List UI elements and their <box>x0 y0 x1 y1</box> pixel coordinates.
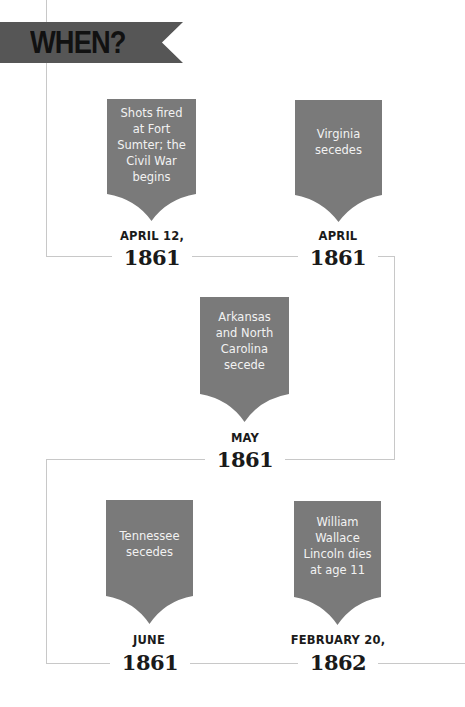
event-year: 1862 <box>298 652 378 674</box>
event-text-line: William <box>294 514 381 530</box>
event-text-line: Shots fired <box>107 105 196 121</box>
event-text-line: Lincoln dies <box>294 546 381 562</box>
page-title: WHEN? <box>30 23 126 63</box>
event-text-line: Sumter; the <box>107 137 196 153</box>
event-text-line: at Fort <box>107 121 196 137</box>
event-year: 1861 <box>110 652 190 674</box>
event-description: Virginia secedes <box>295 126 382 158</box>
event-description: William Wallace Lincoln dies at age 11 <box>294 514 381 578</box>
event-date: MAY <box>145 431 345 445</box>
event-card: Virginia secedes <box>295 100 384 222</box>
event-text-line: at age 11 <box>294 562 381 578</box>
event-date: APRIL 12, <box>52 229 252 243</box>
event-date: JUNE <box>49 633 249 647</box>
event-description: Tennessee secedes <box>106 528 193 560</box>
event-year: 1861 <box>205 449 285 471</box>
event-year: 1861 <box>112 247 192 269</box>
event-description: Arkansas and North Carolina secede <box>200 309 289 373</box>
pennant-shape-icon <box>295 100 384 222</box>
event-text-line: Arkansas <box>200 309 289 325</box>
timeline-line-vertical-left-bottom <box>46 459 47 664</box>
event-date: APRIL <box>238 229 438 243</box>
event-text-line: begins <box>107 169 196 185</box>
event-year: 1861 <box>298 247 378 269</box>
event-text-line: secedes <box>295 142 382 158</box>
timeline-line-row3 <box>46 663 465 664</box>
event-date: FEBRUARY 20, <box>238 633 438 647</box>
event-text-line: Wallace <box>294 530 381 546</box>
event-card: Arkansas and North Carolina secede <box>200 297 289 422</box>
event-card: Shots fired at Fort Sumter; the Civil Wa… <box>107 99 196 221</box>
event-text-line: and North <box>200 325 289 341</box>
event-text-line: secedes <box>106 544 193 560</box>
event-description: Shots fired at Fort Sumter; the Civil Wa… <box>107 105 196 185</box>
event-card: Tennessee secedes <box>106 500 195 624</box>
timeline-line-vertical-right <box>394 256 395 460</box>
event-text-line: secede <box>200 357 289 373</box>
event-card: William Wallace Lincoln dies at age 11 <box>294 501 383 625</box>
pennant-shape-icon <box>106 500 195 624</box>
event-text-line: Civil War <box>107 153 196 169</box>
event-text-line: Virginia <box>295 126 382 142</box>
event-text-line: Carolina <box>200 341 289 357</box>
event-text-line: Tennessee <box>106 528 193 544</box>
